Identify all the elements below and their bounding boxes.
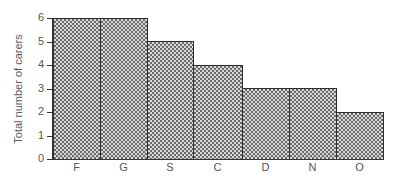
- y-tick-label: 5: [34, 36, 44, 47]
- bar-n: [289, 88, 337, 160]
- y-tick-label: 1: [34, 130, 44, 141]
- bar-c: [193, 65, 243, 160]
- x-tick-label: S: [147, 161, 193, 173]
- bar-s: [147, 41, 194, 160]
- x-tick-label: O: [336, 161, 383, 173]
- x-tick-label: G: [100, 161, 147, 173]
- y-axis-label: Total number of carers: [12, 34, 24, 143]
- x-axis-line: [52, 159, 384, 160]
- bar-o: [336, 112, 384, 160]
- y-tick-label: 0: [34, 153, 44, 164]
- x-tick-label: C: [193, 161, 242, 173]
- y-tick-label: 3: [34, 83, 44, 94]
- bar-chart: Total number of carers 0123456 FGSCDNO: [0, 0, 402, 184]
- bar-d: [242, 88, 290, 160]
- y-tick-label: 6: [34, 12, 44, 23]
- x-tick-label: N: [289, 161, 336, 173]
- y-axis-line: [52, 18, 53, 160]
- x-tick-label: D: [242, 161, 289, 173]
- bar-f: [53, 18, 101, 160]
- y-tick-label: 4: [34, 59, 44, 70]
- x-tick-label: F: [53, 161, 100, 173]
- y-tick-label: 2: [34, 106, 44, 117]
- bar-g: [100, 18, 148, 160]
